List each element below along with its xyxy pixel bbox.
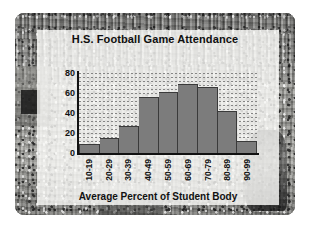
x-tick-label-text: 40-49 — [143, 159, 153, 181]
y-tick-label-0: 0 — [70, 149, 75, 158]
plot-area — [79, 71, 257, 153]
x-tick-90-99: 90-99 — [237, 157, 257, 191]
bar-50-59 — [159, 92, 179, 154]
x-tick-label-text: 50-59 — [163, 159, 173, 181]
x-tick-label-text: 80-89 — [222, 159, 232, 181]
x-tick-label-text: 90-99 — [242, 159, 252, 181]
x-tick-30-39: 30-39 — [119, 157, 139, 191]
x-tick-10-19: 10-19 — [79, 157, 99, 191]
bar-40-49 — [139, 97, 159, 153]
y-axis-title: Number of Schools — [34, 10, 46, 70]
y-tick-label-60: 60 — [65, 89, 75, 98]
chart-title: H.S. Football Game Attendance — [15, 33, 295, 45]
bar-10-19 — [79, 144, 100, 153]
x-tick-label-text: 10-19 — [84, 159, 94, 181]
x-tick-70-79: 70-79 — [198, 157, 218, 191]
x-tick-50-59: 50-59 — [158, 157, 178, 191]
x-axis-line — [77, 153, 259, 155]
x-axis-tick-labels: 10-1920-2930-3940-4950-5960-6970-7980-89… — [79, 157, 257, 191]
bar-60-69 — [178, 84, 198, 153]
bar-20-29 — [100, 138, 120, 153]
y-axis-line — [77, 71, 79, 155]
x-tick-label-text: 20-29 — [104, 159, 114, 181]
bar-80-89 — [218, 111, 238, 153]
x-tick-40-49: 40-49 — [138, 157, 158, 191]
bar-30-39 — [119, 126, 139, 153]
x-tick-label-text: 60-69 — [183, 159, 193, 181]
y-tick-label-20: 20 — [65, 129, 75, 138]
x-tick-20-29: 20-29 — [99, 157, 119, 191]
x-tick-60-69: 60-69 — [178, 157, 198, 191]
y-axis-tick-labels: 80 60 40 20 0 — [55, 69, 75, 157]
chart-figure-frame: H.S. Football Game Attendance Number of … — [12, 10, 298, 218]
bar-70-79 — [198, 87, 218, 153]
y-tick-label-40: 40 — [65, 109, 75, 118]
bar-90-99 — [237, 141, 257, 153]
bar-series — [79, 71, 257, 153]
y-tick-label-80: 80 — [65, 69, 75, 78]
x-tick-80-89: 80-89 — [217, 157, 237, 191]
x-axis-title: Average Percent of Student Body — [37, 191, 279, 202]
x-tick-label-text: 30-39 — [123, 159, 133, 181]
x-tick-label-text: 70-79 — [203, 159, 213, 181]
